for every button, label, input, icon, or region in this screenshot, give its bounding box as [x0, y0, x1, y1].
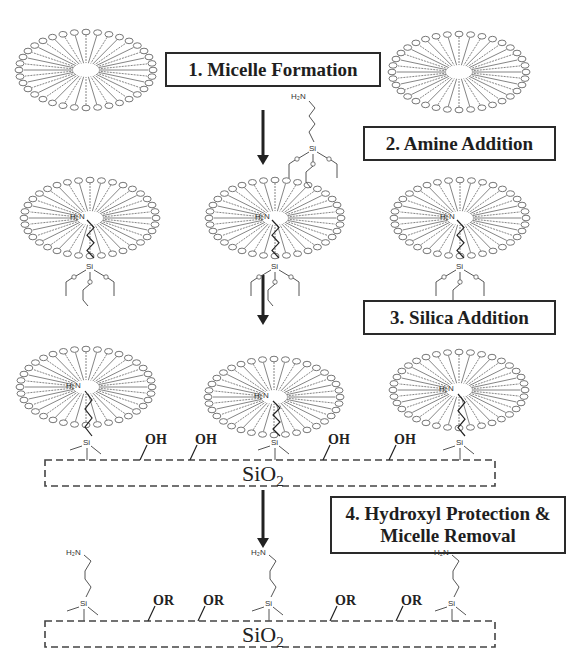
core-amine-label: H₂N [255, 212, 270, 221]
micelle-icon [389, 349, 529, 431]
aminosilane-icon [67, 555, 98, 621]
step-3-label: 3. Silica Addition [390, 307, 529, 329]
step-2-box: 2. Amine Addition [363, 126, 556, 161]
core-amine-label: H₂N [440, 212, 455, 221]
silica-label: SiO2 [242, 461, 284, 490]
micelle-icon [388, 31, 530, 113]
amine-label: H₂N [66, 548, 81, 557]
silicon-label: Si [86, 262, 93, 271]
silicon-label: Si [271, 438, 278, 447]
silicon-label: Si [271, 262, 278, 271]
silicon-label: Si [309, 144, 316, 153]
aminosilane-icon [435, 555, 466, 621]
hydroxyl-label: OH [145, 432, 167, 448]
hydroxyl-label: OH [195, 432, 217, 448]
aminosilane-icon [252, 555, 283, 621]
silicon-label: Si [80, 599, 87, 608]
micelle-icon [204, 356, 344, 438]
reaction-arrow-icon [257, 275, 269, 325]
free-amine-label: H₂N [291, 92, 306, 101]
core-amine-label: H₂N [66, 381, 81, 390]
reaction-arrow-icon [257, 110, 269, 165]
step-2-label: 2. Amine Addition [386, 133, 533, 155]
core-amine-label: H₂N [254, 391, 269, 400]
amine-label: H₂N [251, 548, 266, 557]
hydroxyl-label: OH [394, 432, 416, 448]
silica-label: SiO2 [242, 622, 284, 651]
silicon-label: Si [448, 599, 455, 608]
silicon-label: Si [456, 262, 463, 271]
amine-label: H₂N [434, 548, 449, 557]
core-amine-label: H₂N [70, 212, 85, 221]
step-3-box: 3. Silica Addition [363, 300, 556, 335]
reaction-arrow-icon [257, 490, 269, 548]
protected-hydroxyl-label: OR [401, 593, 422, 609]
protected-hydroxyl-label: OR [203, 593, 224, 609]
reaction-scheme: 1. Micelle Formation 2. Amine Addition 3… [0, 0, 587, 667]
micelle-icon [15, 29, 157, 111]
silicon-label: Si [456, 438, 463, 447]
protected-hydroxyl-label: OR [335, 593, 356, 609]
core-amine-label: H₂N [439, 384, 454, 393]
protected-hydroxyl-label: OR [153, 593, 174, 609]
step-4-box: 4. Hydroxyl Protection & Micelle Removal [330, 496, 566, 554]
step-4-label-line2: Micelle Removal [380, 525, 516, 547]
silicon-label: Si [265, 599, 272, 608]
silicon-label: Si [83, 438, 90, 447]
step-1-box: 1. Micelle Formation [165, 52, 381, 87]
micelle-icon [16, 346, 156, 428]
step-1-label: 1. Micelle Formation [188, 59, 357, 81]
step-4-label-line1: 4. Hydroxyl Protection & [345, 503, 550, 525]
hydroxyl-label: OH [328, 432, 350, 448]
